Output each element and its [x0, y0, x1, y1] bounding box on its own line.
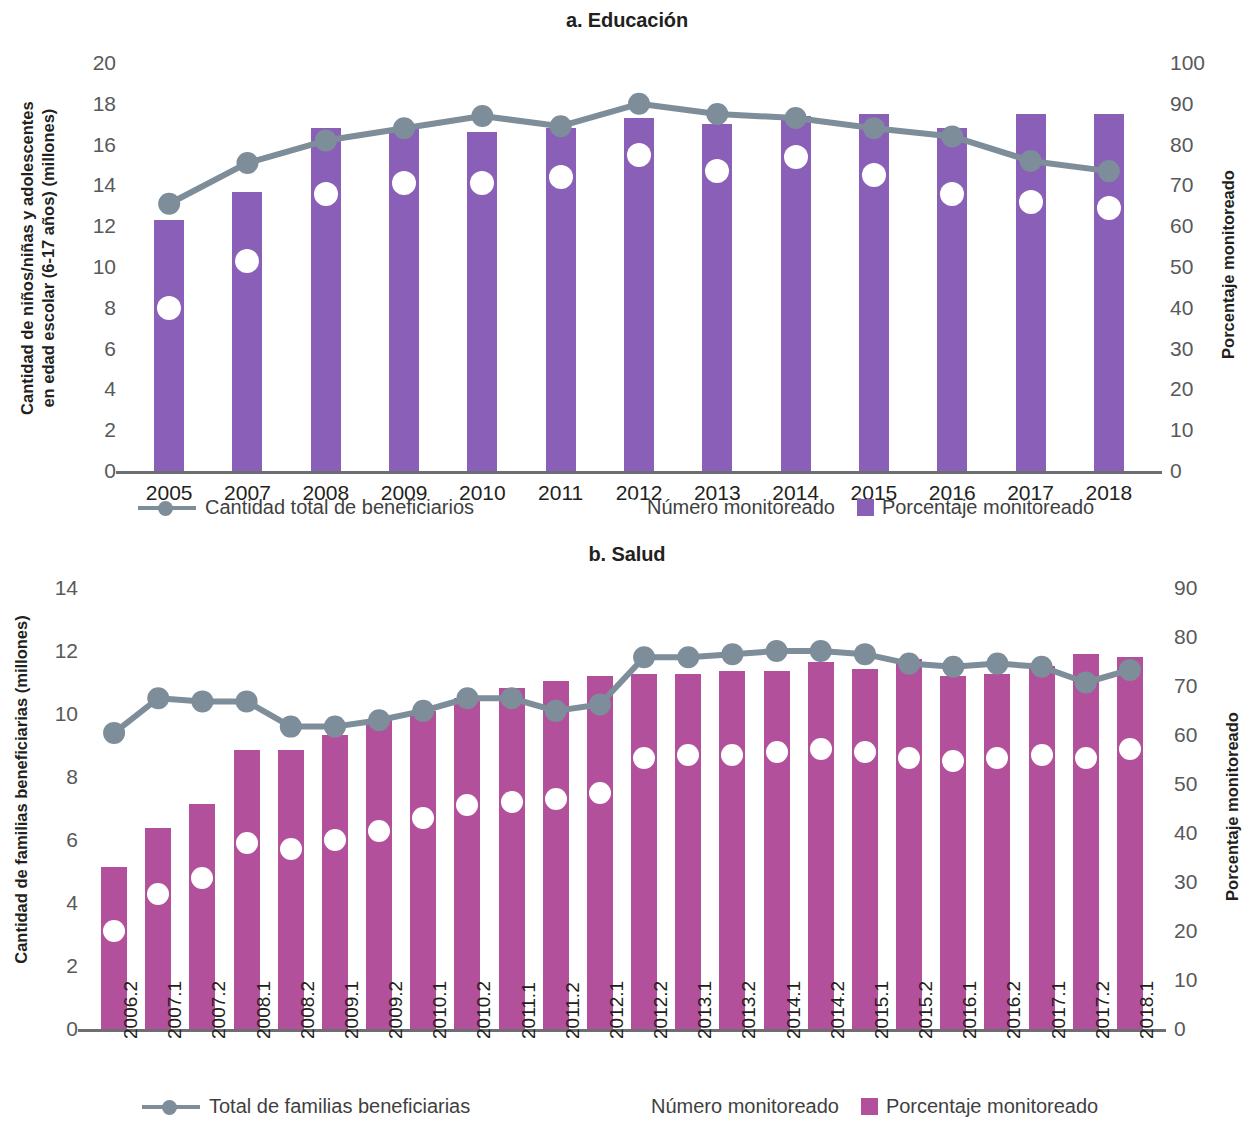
legend-label-monitored-number: Número monitoreado	[647, 496, 835, 519]
y-tick-right: 70	[1170, 174, 1193, 195]
x-tick-2014.2: 2014.2	[828, 981, 847, 1039]
y-tick-right: 90	[1170, 93, 1193, 114]
legend-education-line: Cantidad total de beneficiarios	[138, 496, 474, 519]
legend-label-total-families: Total de familias beneficiarias	[209, 1095, 470, 1118]
y-tick-right: 10	[1174, 969, 1197, 990]
line-marker-2007	[236, 152, 258, 174]
bar-2012.1	[587, 676, 613, 1029]
monitored-marker-2008.1	[236, 832, 258, 854]
monitored-marker-2018.1	[1119, 738, 1141, 760]
bar-2011.2	[543, 681, 569, 1029]
y-tick-right: 50	[1174, 773, 1197, 794]
legend-white-dot-icon	[626, 1098, 643, 1115]
y-tick-right: 80	[1170, 134, 1193, 155]
y-tick-right: 60	[1174, 724, 1197, 745]
line-marker-2013.1	[677, 646, 699, 668]
x-tick-2018.1: 2018.1	[1137, 981, 1156, 1039]
x-tick-2017.2: 2017.2	[1093, 981, 1112, 1039]
bar-2013.1	[675, 674, 701, 1029]
bar-2015.1	[852, 669, 878, 1029]
line-marker-2016.1	[942, 656, 964, 678]
line-marker-2005	[158, 193, 180, 215]
legend-health-bars: Número monitoreado Porcentaje monitoread…	[626, 1095, 1098, 1118]
monitored-marker-2009.1	[324, 829, 346, 851]
x-tick-2014.1: 2014.1	[784, 981, 803, 1039]
y-tick-right: 60	[1170, 215, 1193, 236]
y-tick-left: 6	[66, 829, 78, 850]
legend-magenta-swatch-icon	[861, 1098, 878, 1115]
x-tick-2016.2: 2016.2	[1004, 981, 1023, 1039]
y-axis-title-education-left: Cantidad de niños/niñas y adolescentes e…	[17, 48, 59, 468]
monitored-marker-2007.1	[147, 883, 169, 905]
chart-title-education: a. Educación	[0, 0, 1254, 32]
bar-2016	[937, 128, 967, 471]
monitored-marker-2017.2	[1075, 747, 1097, 769]
y-tick-right: 0	[1174, 1018, 1186, 1039]
monitored-marker-2017	[1019, 190, 1043, 214]
line-marker-2015.1	[854, 643, 876, 665]
y-tick-left: 18	[93, 93, 116, 114]
y-tick-left: 16	[93, 134, 116, 155]
bar-2016.2	[984, 674, 1010, 1029]
monitored-marker-2012	[627, 143, 651, 167]
line-marker-2013.2	[721, 643, 743, 665]
bar-2013.2	[719, 671, 745, 1029]
x-tick-2012.1: 2012.1	[607, 981, 626, 1039]
plot-area-health: Cantidad de familias beneficiarias (mill…	[0, 574, 1254, 1034]
y-tick-left: 2	[104, 419, 116, 440]
legend-label-monitored-number: Número monitoreado	[651, 1095, 839, 1118]
legend-health-line: Total de familias beneficiarias	[142, 1095, 470, 1118]
chart-panel-education: a. Educación Cantidad de niños/niñas y a…	[0, 0, 1254, 560]
bar-2012	[624, 118, 654, 471]
monitored-marker-2015.2	[898, 747, 920, 769]
chart-panel-health: b. Salud Cantidad de familias beneficiar…	[0, 543, 1254, 1124]
y-tick-left: 4	[66, 892, 78, 913]
monitored-marker-2015.1	[854, 741, 876, 763]
x-tick-2006.2: 2006.2	[121, 981, 140, 1039]
line-marker-2014.1	[766, 640, 788, 662]
y-axis-title-education-right: Porcentaje monitoreado	[1219, 145, 1238, 385]
x-tick-2009.1: 2009.1	[342, 981, 361, 1039]
line-marker-2007.1	[147, 687, 169, 709]
monitored-marker-2009.2	[368, 820, 390, 842]
monitored-marker-2018	[1097, 196, 1121, 220]
y-tick-right: 50	[1170, 256, 1193, 277]
monitored-marker-2012.2	[633, 747, 655, 769]
line-marker-2016.2	[986, 653, 1008, 675]
line-marker-2010	[471, 105, 493, 127]
line-path	[114, 651, 1130, 733]
legend-line-marker-icon	[138, 500, 196, 516]
monitored-marker-2016	[940, 182, 964, 206]
y-tick-right: 20	[1174, 920, 1197, 941]
line-marker-2013	[706, 103, 728, 125]
x-tick-2012.2: 2012.2	[651, 981, 670, 1039]
x-tick-2011.1: 2011.1	[519, 982, 538, 1039]
line-marker-2012	[628, 93, 650, 115]
bar-2018.1	[1117, 657, 1143, 1029]
y-tick-right: 10	[1170, 419, 1193, 440]
y-tick-right: 0	[1170, 460, 1182, 481]
monitored-marker-2014	[784, 145, 808, 169]
x-tick-2011.2: 2011.2	[563, 982, 582, 1039]
legend-purple-swatch-icon	[857, 499, 874, 516]
monitored-marker-2011	[549, 165, 573, 189]
monitored-marker-2011.1	[501, 791, 523, 813]
bar-2014.2	[808, 662, 834, 1030]
chart-title-health: b. Salud	[0, 543, 1254, 566]
legend-label-total-beneficiaries: Cantidad total de beneficiarios	[205, 496, 474, 519]
legend-label-monitored-percent: Porcentaje monitoreado	[886, 1095, 1098, 1118]
monitored-marker-2011.2	[545, 788, 567, 810]
x-axis-line	[116, 471, 1162, 474]
y-tick-right: 90	[1174, 577, 1197, 598]
bar-2017	[1016, 114, 1046, 471]
line-marker-2008.1	[236, 690, 258, 712]
y-tick-left: 10	[55, 703, 78, 724]
y-tick-left: 20	[93, 52, 116, 73]
x-tick-2015.1: 2015.1	[872, 981, 891, 1039]
bar-2014.1	[764, 671, 790, 1029]
x-tick-2011: 2011	[532, 482, 590, 503]
line-marker-2007.2	[191, 690, 213, 712]
y-tick-left: 2	[66, 955, 78, 976]
y-tick-left: 4	[104, 378, 116, 399]
x-tick-2007.1: 2007.1	[165, 981, 184, 1039]
